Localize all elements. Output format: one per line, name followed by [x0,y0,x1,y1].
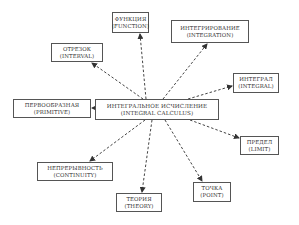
edge-limit [190,120,239,138]
node-integral: ИНТЕГРАЛ (INTEGRAL) [233,73,279,93]
node-limit: ПРЕДЕЛ (LIMIT) [240,136,279,155]
node-label-en: (THEORY) [124,203,153,210]
node-label-en: (INTEGRATION) [187,32,234,39]
node-label-ru: ТЕОРИЯ [126,196,151,203]
node-label-ru: ФУНКЦИЯ [115,16,147,23]
node-integral-calculus: ИНТЕГРАЛЬНОЕ ИСЧИСЛЕНИЕ (INTEGRAL CALCUL… [95,99,219,120]
node-integration: ИНТЕГРИРОВАНИЕ (INTEGRATION) [171,20,249,43]
node-label-ru: ИНТЕГРИРОВАНИЕ [180,25,240,32]
node-label-ru: ИНТЕГРАЛЬНОЕ ИСЧИСЛЕНИЕ [107,103,208,110]
node-label-ru: ИНТЕГРАЛ [239,76,273,83]
node-label-en: (INTEGRAL) [238,83,273,90]
node-label-ru: ПРЕДЕЛ [247,139,273,146]
node-label-en: (PRIMITIVE) [34,109,70,116]
node-label-en: (CONTINUITY) [54,172,97,179]
edge-continuity [90,120,145,161]
node-label-ru: ТОЧКА [202,185,223,192]
edge-interval [92,63,143,99]
node-label-en: (POINT) [200,192,223,199]
edge-integration [163,44,207,99]
node-function: ФУНКЦИЯ (FUNCTION) [112,12,149,33]
node-label-ru: ПЕРВООБРАЗНАЯ [25,102,80,109]
concept-map-diagram: ИНТЕГРАЛЬНОЕ ИСЧИСЛЕНИЕ (INTEGRAL CALCUL… [0,0,299,225]
node-label-ru: ОТРЕЗОК [63,46,91,53]
node-theory: ТЕОРИЯ (THEORY) [116,193,162,212]
edge-function [140,34,146,99]
node-primitive: ПЕРВООБРАЗНАЯ (PRIMITIVE) [13,99,91,118]
node-label-en: (LIMIT) [249,146,271,153]
node-point: ТОЧКА (POINT) [193,182,231,202]
edge-integral [188,86,232,99]
node-continuity: НЕПРЕРЫВНОСТЬ (CONTINUITY) [37,162,113,181]
node-label-en: (INTEGRAL CALCULUS) [121,110,193,117]
node-interval: ОТРЕЗОК (INTERVAL) [51,43,103,62]
edge-point [165,120,202,181]
edge-theory [142,120,152,192]
node-label-en: (INTERVAL) [60,53,94,60]
node-label-en: (FUNCTION) [112,23,149,30]
node-label-ru: НЕПРЕРЫВНОСТЬ [47,165,103,172]
